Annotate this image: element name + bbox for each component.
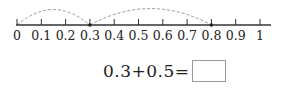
tick-label: 0.4 <box>104 28 124 43</box>
number-line-diagram: 00.10.20.30.40.50.60.70.80.91 <box>0 0 287 58</box>
tick-labels: 00.10.20.30.40.50.60.70.80.91 <box>13 28 264 43</box>
point-marker <box>88 23 92 27</box>
tick-label: 0.3 <box>80 28 100 43</box>
tick-label: 0.8 <box>201 28 221 43</box>
equation-expression: 0.3+0.5= <box>103 61 190 81</box>
tick-label: 0.6 <box>153 28 173 43</box>
tick-marks <box>17 19 260 25</box>
answer-box[interactable] <box>192 60 226 82</box>
tick-label: 0.5 <box>129 28 149 43</box>
tick-label: 0.2 <box>56 28 76 43</box>
tick-label: 1 <box>256 28 264 43</box>
tick-label: 0.7 <box>177 28 197 43</box>
tick-label: 0.1 <box>31 28 51 43</box>
jump-arc <box>90 9 211 25</box>
tick-label: 0 <box>13 28 21 43</box>
tick-label: 0.9 <box>226 28 246 43</box>
jump-arc <box>17 10 90 25</box>
point-marker <box>210 23 214 27</box>
equation: 0.3+0.5= <box>103 60 226 82</box>
